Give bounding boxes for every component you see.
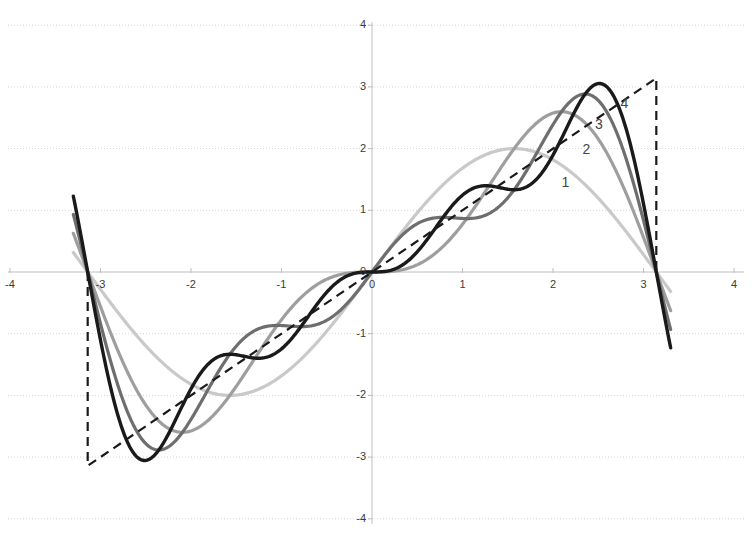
y-tick-label: 1 — [346, 203, 366, 215]
y-tick-label: -3 — [346, 450, 366, 462]
series-annotation-2: 2 — [582, 141, 590, 157]
y-tick-label: 4 — [346, 18, 366, 30]
x-tick-label: -4 — [0, 278, 24, 290]
x-tick-label: -1 — [268, 278, 296, 290]
x-tick-label: 2 — [539, 278, 567, 290]
x-tick-label: 1 — [449, 278, 477, 290]
chart-canvas — [0, 0, 752, 540]
series-annotation-4: 4 — [620, 95, 628, 111]
x-tick-label: 4 — [720, 278, 748, 290]
y-tick-label: 3 — [346, 80, 366, 92]
y-tick-label: 0 — [346, 265, 366, 277]
series-annotation-1: 1 — [562, 174, 570, 190]
fourier-series-chart: -4-3-2-101234 43210-1-2-3-4 1234 — [0, 0, 752, 540]
y-tick-label: 2 — [346, 142, 366, 154]
y-tick-label: -1 — [346, 327, 366, 339]
y-tick-label: -4 — [346, 512, 366, 524]
x-tick-label: -3 — [87, 278, 115, 290]
x-tick-label: -2 — [177, 278, 205, 290]
y-tick-label: -2 — [346, 388, 366, 400]
series-annotation-3: 3 — [595, 116, 603, 132]
x-tick-label: 3 — [630, 278, 658, 290]
x-tick-label: 0 — [358, 278, 386, 290]
